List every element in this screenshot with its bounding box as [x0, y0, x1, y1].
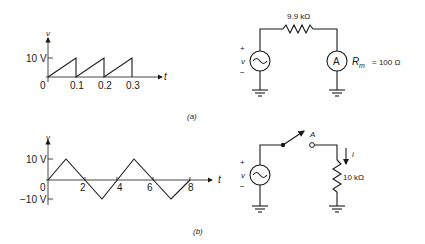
wire-left-top [260, 29, 283, 51]
source-plus: + [240, 44, 245, 53]
figure-canvas: v t 10 V 0 0.1 0.2 0.3 (a) 9.9 kΩ + v − … [0, 0, 425, 244]
sawtooth-waveform [48, 58, 132, 77]
ammeter-circuit: 9.9 kΩ + v − A R m = 100 Ω [240, 12, 400, 96]
x-tick-label-4: 4 [117, 182, 123, 193]
x-tick-label-2: 2 [80, 182, 86, 193]
ground-icon [329, 90, 345, 96]
resistor-label: 9.9 kΩ [287, 12, 310, 21]
source-label: v [241, 171, 246, 180]
switch-arm-icon [283, 131, 304, 145]
y-axis-label: v [46, 29, 51, 38]
ground-icon [252, 90, 268, 96]
source-label: v [241, 57, 246, 66]
part-a-label: (a) [187, 112, 197, 121]
x-tick-label-6: 6 [147, 182, 153, 193]
wire-right-top [313, 29, 337, 51]
sine-wave-glyph-icon [253, 173, 267, 178]
x-tick-label-0.1: 0.1 [70, 80, 84, 91]
x-axis-label: t [218, 174, 222, 185]
current-label: i [352, 150, 354, 159]
y-tick-label: 10 V [26, 53, 47, 64]
x-tick-label-0: 0 [40, 80, 46, 91]
source-minus: − [240, 68, 245, 77]
x-tick-label-0: 0 [40, 182, 46, 193]
y-tick-label-minus-10v: −10 V [20, 194, 47, 205]
triangle-waveform [48, 159, 190, 199]
y-axis-label: v [46, 133, 51, 142]
wire-left-top [260, 145, 283, 165]
meter-resistance-value: = 100 Ω [372, 58, 400, 67]
x-tick-label-0.3: 0.3 [126, 80, 140, 91]
switch-terminal-label: A [309, 130, 315, 139]
x-axis-label: t [164, 71, 168, 82]
wire-right-top [315, 145, 338, 160]
part-b-label: (b) [193, 227, 203, 236]
sine-wave-glyph-icon [253, 59, 267, 64]
ammeter-symbol: A [333, 56, 340, 67]
ground-icon [252, 206, 268, 212]
switch-terminal-icon [310, 143, 315, 148]
switch-circuit: A i 10 kΩ + v − [240, 130, 364, 212]
y-tick-label-10v: 10 V [26, 154, 47, 165]
sawtooth-graph: v t 10 V 0 0.1 0.2 0.3 (a) [26, 29, 197, 121]
source-plus: + [240, 158, 245, 167]
x-tick-label-0.2: 0.2 [98, 80, 112, 91]
meter-resistance-subscript: m [359, 62, 365, 69]
resistor-10k-icon [333, 160, 341, 192]
source-minus: − [240, 182, 245, 191]
x-tick-label-8: 8 [188, 182, 194, 193]
resistor-9.9k-icon [283, 25, 313, 33]
triangle-graph: v t 10 V −10 V 0 2 4 6 8 (b) [20, 133, 222, 236]
ground-icon [329, 206, 345, 212]
resistor-label: 10 kΩ [343, 173, 364, 182]
